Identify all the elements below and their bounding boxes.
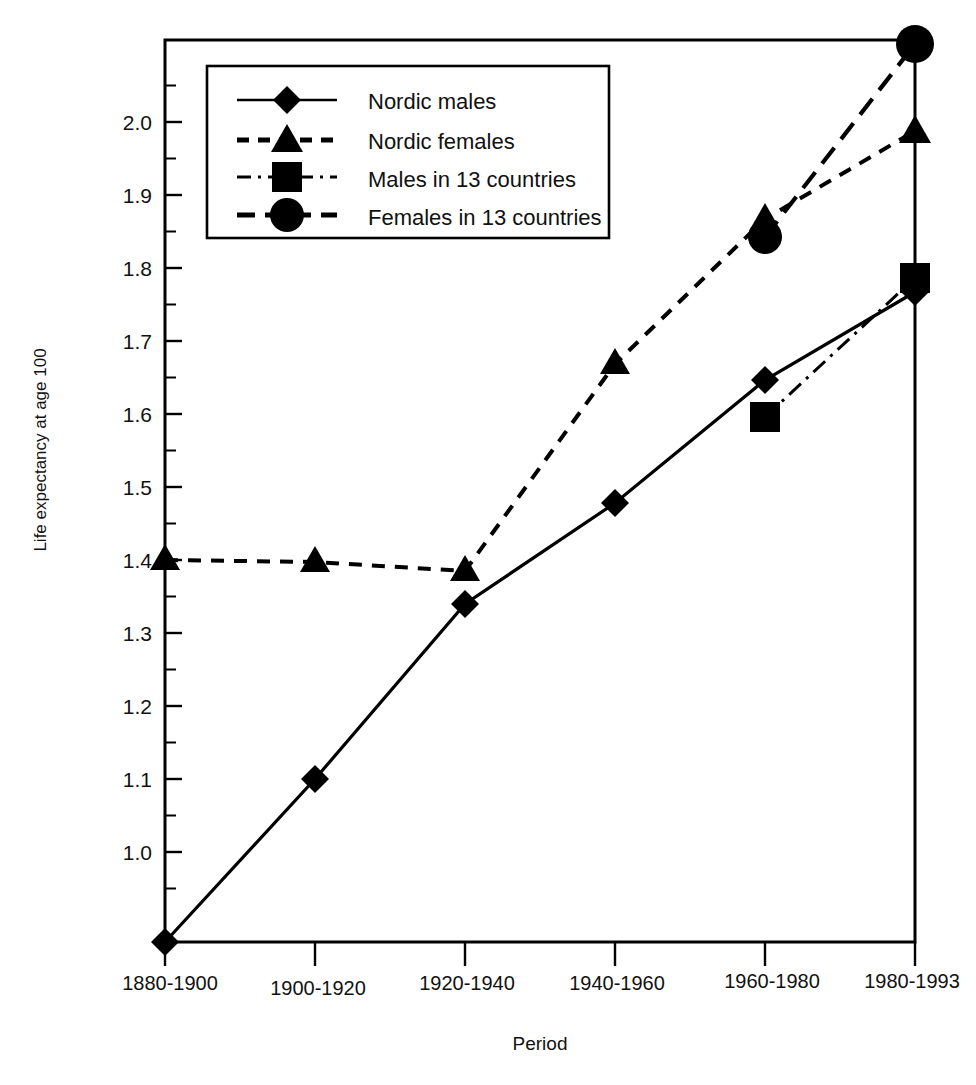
x-tick-labels: 1880-1900 1900-1920 1920-1940 1940-1960 …	[122, 970, 960, 999]
y-axis-title: Life expectancy at age 100	[31, 348, 50, 551]
x-tick-label: 1880-1900	[122, 972, 218, 994]
y-tick-label: 1.9	[123, 184, 152, 207]
y-tick-label: 1.3	[123, 622, 152, 645]
x-tick-label: 1900-1920	[270, 977, 366, 999]
y-tick-label: 1.0	[123, 841, 152, 864]
chart-legend: Nordic males Nordic females Males in 13 …	[207, 66, 609, 238]
circle-marker	[270, 198, 304, 232]
y-tick-label: 1.5	[123, 476, 152, 499]
x-axis-title: Period	[513, 1033, 568, 1054]
y-tick-label: 1.2	[123, 695, 152, 718]
legend-entry-label: Nordic males	[368, 89, 496, 114]
x-tick-label: 1960-1980	[724, 970, 820, 992]
square-marker	[750, 402, 780, 432]
y-tick-labels: 2.0 1.9 1.8 1.7 1.6 1.5 1.4 1.3 1.2 1.1 …	[123, 111, 153, 864]
triangle-marker	[450, 555, 480, 581]
y-tick-label: 1.4	[123, 549, 153, 572]
triangle-marker	[300, 546, 330, 572]
females-13-countries-line	[765, 44, 915, 237]
y-tick-label: 1.7	[123, 330, 152, 353]
series-nordic-males	[151, 278, 929, 956]
x-tick-label: 1980-1993	[864, 970, 960, 992]
legend-entry-males-13-countries[interactable]: Males in 13 countries	[237, 162, 576, 192]
series-males-13-countries	[750, 263, 930, 432]
legend-entry-label: Nordic females	[368, 129, 515, 154]
nordic-males-line	[165, 292, 915, 942]
figure-container: 2.0 1.9 1.8 1.7 1.6 1.5 1.4 1.3 1.2 1.1 …	[0, 0, 976, 1085]
triangle-marker	[899, 115, 931, 143]
square-marker	[272, 162, 302, 192]
y-tick-label: 1.6	[123, 403, 152, 426]
triangle-marker	[600, 348, 630, 374]
triangle-marker	[150, 544, 180, 570]
circle-marker	[896, 25, 934, 63]
x-tick-label: 1920-1940	[419, 972, 515, 994]
square-marker	[900, 263, 930, 293]
y-tick-label: 1.1	[123, 768, 152, 791]
y-tick-label: 1.8	[123, 257, 152, 280]
males-13-countries-line	[765, 278, 915, 417]
legend-entry-label: Males in 13 countries	[368, 167, 576, 192]
y-tick-label: 2.0	[123, 111, 152, 134]
x-axis-ticks	[165, 942, 915, 966]
x-tick-label: 1940-1960	[569, 972, 665, 994]
line-chart: 2.0 1.9 1.8 1.7 1.6 1.5 1.4 1.3 1.2 1.1 …	[0, 0, 976, 1085]
circle-marker	[748, 220, 782, 254]
legend-entry-label: Females in 13 countries	[368, 205, 602, 230]
